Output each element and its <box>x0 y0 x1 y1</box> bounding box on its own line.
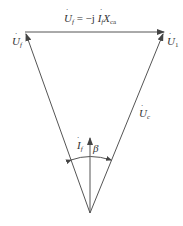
svg-text:·: · <box>100 5 102 14</box>
diagram-svg: Uf = −j IfXca · · Uf · U1 · Uc · If · β <box>0 0 183 226</box>
svg-text:·: · <box>77 133 79 142</box>
beta-angle-arc <box>71 157 111 161</box>
top-equation-label: Uf = −j IfXca <box>64 12 117 26</box>
uc-phasor-arrow <box>90 34 163 213</box>
beta-label: β <box>92 142 99 154</box>
svg-text:·: · <box>66 5 68 14</box>
uf-label: Uf <box>12 35 23 49</box>
svg-text:·: · <box>169 29 171 38</box>
phasor-diagram: Uf = −j IfXca · · Uf · U1 · Uc · If · β <box>0 0 183 226</box>
svg-text:·: · <box>141 101 143 110</box>
svg-text:·: · <box>15 29 17 38</box>
uf-phasor-arrow <box>26 34 90 213</box>
